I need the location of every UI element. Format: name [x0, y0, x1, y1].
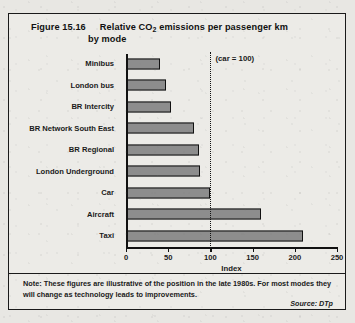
bar-minibus [126, 58, 160, 69]
figure-title-text-part1: Relative CO [100, 22, 153, 32]
category-label-br-intercity: BR Intercity [9, 102, 120, 111]
category-label-aircraft: Aircraft [9, 210, 120, 219]
chart-row: London Underground [9, 162, 347, 182]
bar-track [126, 162, 347, 182]
footer-divider [9, 273, 345, 274]
bar-track [126, 226, 347, 246]
category-label-minibus: Minibus [9, 59, 120, 68]
category-label-london-bus: London bus [9, 81, 120, 90]
x-tick [253, 247, 254, 252]
figure-title-subscript: 2 [153, 26, 157, 33]
chart-row: London bus [9, 76, 347, 96]
x-tick-label: 150 [246, 253, 259, 262]
bar-london-bus [126, 80, 166, 91]
figure-number: Figure 15.16 [31, 22, 86, 32]
category-label-br-network-south-east: BR Network South East [9, 124, 120, 133]
chart-row: Car [9, 183, 347, 203]
bar-london-underground [126, 166, 200, 177]
chart-row: BR Intercity [9, 97, 347, 117]
bar-br-intercity [126, 101, 171, 112]
chart-row: BR Network South East [9, 119, 347, 139]
x-tick-label: 200 [288, 253, 301, 262]
chart-row: BR Regional [9, 140, 347, 160]
bar-track [126, 119, 347, 139]
bar-br-regional [126, 144, 199, 155]
x-tick-label: 50 [164, 253, 172, 262]
x-axis-label: Index [126, 264, 337, 273]
x-axis-line [126, 247, 337, 249]
bar-taxi [126, 230, 303, 241]
category-label-london-underground: London Underground [9, 167, 120, 176]
x-tick-label: 100 [204, 253, 217, 262]
figure-panel: Figure 15.16Relative CO2 emissions per p… [8, 13, 346, 310]
category-label-taxi: Taxi [9, 231, 120, 240]
x-tick [295, 247, 296, 252]
figure-title: Figure 15.16Relative CO2 emissions per p… [31, 22, 333, 45]
y-axis-line [126, 54, 128, 248]
x-tick [337, 247, 338, 252]
figure-source: Source: DTp [290, 299, 333, 308]
x-tick [126, 247, 127, 252]
bar-track [126, 205, 347, 225]
category-label-car: Car [9, 188, 120, 197]
bar-br-network-south-east [126, 123, 194, 134]
x-tick [210, 247, 211, 252]
figure-title-line2: by mode [88, 34, 333, 46]
category-label-br-regional: BR Regional [9, 145, 120, 154]
bar-track [126, 140, 347, 160]
bar-track [126, 183, 347, 203]
bar-aircraft [126, 209, 261, 220]
chart-row: Aircraft [9, 205, 347, 225]
reference-line-car-100 [210, 52, 211, 248]
bar-car [126, 187, 210, 198]
x-tick-label: 250 [331, 253, 344, 262]
bar-track [126, 76, 347, 96]
figure-note: Note: These figures are illustrative of … [23, 279, 333, 300]
chart-plot-area: Minibus London bus BR Intercity BR Netwo… [9, 54, 347, 259]
reference-line-label: (car = 100) [215, 54, 254, 63]
bar-track [126, 97, 347, 117]
x-tick [168, 247, 169, 252]
chart-row: Minibus [9, 54, 347, 74]
figure-title-text-part2: emissions per passenger km [157, 22, 288, 32]
x-tick-label: 0 [124, 253, 128, 262]
chart-row: Taxi [9, 226, 347, 246]
